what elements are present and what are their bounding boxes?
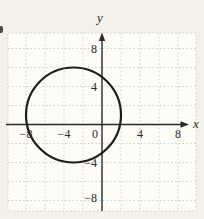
x-axis-label: x bbox=[192, 116, 199, 131]
figure-page: −8 −4 0 4 8 8 4 −4 −8 x y bbox=[0, 0, 204, 219]
y-axis-label: y bbox=[95, 10, 103, 25]
y-tick-pos8: 8 bbox=[91, 42, 97, 56]
y-tick-neg4: −4 bbox=[84, 156, 97, 170]
y-tick-neg8: −8 bbox=[84, 191, 97, 205]
coordinate-plane: −8 −4 0 4 8 8 4 −4 −8 x y bbox=[0, 0, 204, 219]
x-tick-pos8: 8 bbox=[175, 127, 181, 141]
x-tick-pos4: 4 bbox=[137, 127, 143, 141]
y-tick-pos4: 4 bbox=[91, 80, 97, 94]
x-tick-neg8: −8 bbox=[20, 127, 33, 141]
scan-artifact bbox=[0, 26, 3, 33]
x-tick-neg4: −4 bbox=[58, 127, 71, 141]
x-tick-zero: 0 bbox=[92, 127, 98, 141]
